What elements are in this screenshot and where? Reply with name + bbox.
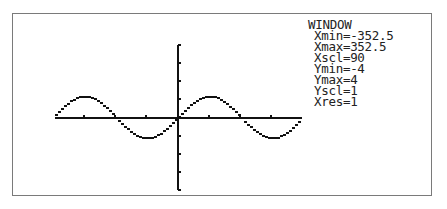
xres-setting: Xres=1	[308, 96, 393, 107]
window-settings-panel: WINDOW Xmin=-352.5 Xmax=352.5 Xscl=90 Ym…	[308, 19, 393, 107]
